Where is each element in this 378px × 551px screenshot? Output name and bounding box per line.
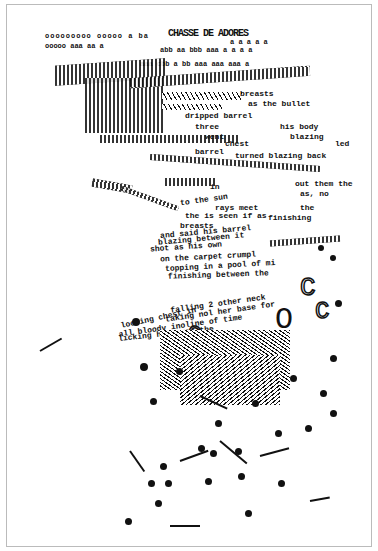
ink-stroke	[170, 525, 200, 527]
ink-dot	[140, 363, 148, 371]
text-fragment: the is seen if as	[185, 212, 267, 220]
ink-dot	[210, 450, 217, 457]
text-fragment: chest	[225, 140, 249, 148]
text-fragment: barrel	[195, 148, 224, 156]
dense-band	[165, 178, 215, 186]
glyph-cloud-a: abb aa bbb aaa a a a a	[160, 46, 252, 54]
outline-glyph-c: C	[300, 275, 316, 301]
text-fragment: led	[335, 140, 349, 148]
ink-stroke	[310, 497, 330, 502]
text-fragment: finishing	[268, 214, 311, 222]
ink-dot	[148, 480, 155, 487]
glyph-cloud-a2: a a a a a	[230, 38, 268, 46]
ink-dot	[150, 398, 157, 405]
text-fragment: dripped barrel	[185, 112, 252, 120]
hatch-band	[162, 104, 222, 110]
ink-dot	[155, 500, 162, 507]
text-fragment: went	[205, 133, 224, 141]
ink-dot	[290, 375, 297, 382]
glyph-cloud-o2: ooooo aaa aa a	[45, 42, 104, 50]
typewriter-artwork: ooooooooo ooooo a ba ooooo aaa aa a CHAS…	[0, 0, 378, 551]
ink-stroke	[40, 338, 63, 352]
ink-dot	[238, 473, 245, 480]
text-fragment: the	[300, 204, 314, 212]
glyph-cloud-o: ooooooooo ooooo a ba	[45, 32, 149, 40]
ink-dot	[318, 245, 324, 251]
ink-dot	[252, 400, 259, 407]
ink-stroke	[129, 450, 145, 472]
ink-dot	[245, 510, 252, 517]
ink-stroke	[260, 447, 289, 457]
ink-stroke	[180, 450, 209, 462]
ink-dot	[320, 390, 327, 397]
text-fragment: in	[210, 183, 220, 191]
text-fragment: finishing between the	[168, 269, 269, 281]
outline-glyph-c: C	[315, 300, 329, 324]
hatch-band	[162, 92, 242, 100]
text-fragment: his body	[280, 123, 318, 131]
text-fragment: out them the	[295, 180, 353, 188]
ink-dot	[165, 480, 172, 487]
ink-dot	[305, 425, 312, 432]
text-fragment: breasts	[240, 90, 274, 98]
ink-dot	[275, 430, 282, 437]
ink-dot	[278, 480, 285, 487]
ink-dot	[125, 518, 132, 525]
ink-dot	[160, 463, 167, 470]
text-fragment: blazing	[290, 133, 324, 141]
text-fragment: three	[195, 123, 219, 131]
ink-dot	[132, 318, 140, 326]
ink-dot	[330, 410, 337, 417]
ink-stroke	[219, 440, 247, 464]
ink-dot	[215, 420, 222, 427]
ink-dot	[176, 368, 183, 375]
text-fragment: as the bullet	[248, 100, 310, 108]
ink-dot	[205, 478, 212, 485]
nose-shape	[121, 186, 179, 211]
ink-dot	[335, 300, 342, 307]
dense-band	[270, 236, 340, 247]
title-glyphs: CHASSE DE ADORES	[168, 30, 248, 38]
ink-dot	[330, 255, 336, 261]
ink-dot	[330, 355, 337, 362]
scribble-mass	[180, 355, 280, 405]
text-fragment: as, no	[300, 190, 329, 198]
text-fragment: turned blazing back	[235, 152, 326, 160]
